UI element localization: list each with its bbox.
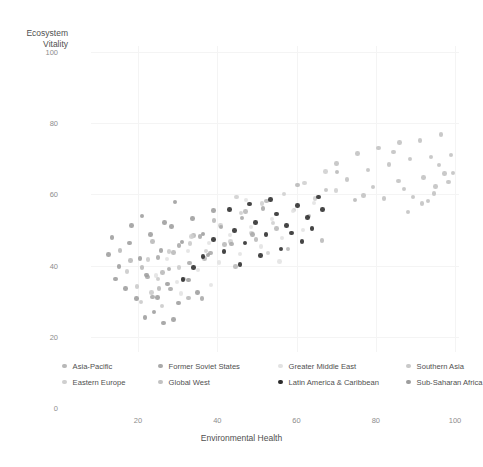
y-tick-label: 20	[28, 333, 58, 342]
legend-item[interactable]: Southern Asia	[406, 362, 483, 371]
scatter-point	[165, 282, 170, 287]
scatter-point	[366, 168, 371, 173]
scatter-point	[177, 243, 182, 248]
y-tick-label: 100	[28, 48, 58, 57]
scatter-point	[211, 237, 216, 242]
scatter-point	[249, 225, 254, 230]
x-tick-label: 40	[202, 416, 232, 425]
scatter-point	[429, 155, 434, 160]
scatter-point	[240, 216, 245, 221]
y-tick-label: 80	[28, 119, 58, 128]
scatter-point	[397, 140, 402, 145]
scatter-point	[243, 209, 248, 214]
scatter-point	[323, 169, 328, 174]
scatter-point	[268, 197, 273, 202]
scatter-point	[157, 286, 162, 291]
scatter-point	[113, 277, 118, 282]
legend-item[interactable]: Global West	[158, 378, 278, 387]
scatter-point	[391, 150, 396, 155]
scatter-point	[244, 198, 249, 203]
gridline-horizontal	[91, 337, 460, 338]
scatter-point	[334, 188, 339, 193]
legend-item[interactable]: Former Soviet States	[158, 362, 278, 371]
legend-item[interactable]: Latin America & Caribbean	[278, 378, 406, 387]
scatter-point	[228, 233, 233, 238]
scatter-point	[421, 175, 426, 180]
scatter-point	[218, 223, 223, 228]
scatter-point	[307, 214, 312, 219]
legend-swatch-icon	[158, 380, 163, 385]
scatter-point	[334, 161, 339, 166]
scatter-point	[243, 241, 248, 246]
scatter-point	[442, 171, 447, 176]
scatter-point	[261, 206, 266, 211]
scatter-point	[125, 269, 130, 274]
scatter-point	[316, 195, 321, 200]
legend-swatch-icon	[62, 364, 67, 369]
scatter-point	[286, 247, 291, 252]
scatter-point	[219, 225, 224, 230]
scatter-point	[408, 157, 413, 162]
scatter-point	[189, 234, 194, 239]
scatter-point	[279, 247, 284, 252]
scatter-point	[264, 199, 269, 204]
scatter-point	[406, 210, 411, 215]
scatter-point	[149, 290, 154, 295]
scatter-point	[247, 202, 252, 207]
scatter-point	[143, 315, 148, 320]
scatter-point	[171, 250, 176, 255]
scatter-point	[355, 151, 360, 156]
scatter-point	[260, 201, 265, 206]
scatter-point	[156, 255, 161, 260]
scatter-point	[274, 226, 279, 231]
legend-swatch-icon	[62, 380, 67, 385]
scatter-point	[270, 217, 275, 222]
scatter-point	[232, 228, 237, 233]
scatter-point	[123, 286, 128, 291]
scatter-point	[266, 251, 271, 256]
scatter-point	[439, 132, 444, 137]
scatter-point	[376, 146, 381, 151]
legend-item[interactable]: Asia-Pacific	[62, 362, 158, 371]
scatter-point	[353, 198, 358, 203]
scatter-point	[201, 232, 206, 237]
gridline-vertical	[376, 46, 377, 352]
plot-area	[0, 0, 483, 467]
gridline-horizontal	[91, 266, 460, 267]
legend-item[interactable]: Greater Middle East	[278, 362, 406, 371]
scatter-point	[207, 241, 212, 246]
scatter-point	[180, 240, 185, 245]
scatter-point	[259, 244, 264, 249]
scatter-point	[238, 252, 243, 257]
scatter-point	[324, 188, 329, 193]
legend-item[interactable]: Sub-Saharan Africa	[406, 378, 483, 387]
scatter-point	[274, 212, 279, 217]
y-axis-title-line1: Ecosystem	[6, 28, 68, 39]
scatter-point	[162, 220, 167, 225]
scatter-point	[345, 177, 350, 182]
scatter-point	[371, 185, 376, 190]
scatter-point	[206, 253, 211, 258]
legend-swatch-icon	[158, 364, 163, 369]
legend-label: Asia-Pacific	[73, 362, 113, 371]
scatter-point	[277, 259, 282, 264]
scatter-point	[165, 257, 170, 262]
x-tick-label: 60	[282, 416, 312, 425]
scatter-point	[312, 201, 317, 206]
scatter-point	[156, 277, 161, 282]
scatter-point	[449, 153, 454, 158]
scatter-point	[254, 237, 259, 242]
scatter-point	[258, 253, 263, 258]
scatter-point	[305, 215, 310, 220]
scatter-point	[118, 248, 123, 253]
scatter-point	[188, 241, 193, 246]
legend-item[interactable]: Eastern Europe	[62, 378, 158, 387]
x-tick-label: 80	[361, 416, 391, 425]
gridline-vertical	[455, 46, 456, 352]
scatter-point	[161, 321, 166, 326]
scatter-point	[160, 270, 165, 275]
scatter-point	[160, 304, 165, 309]
scatter-point	[198, 234, 203, 239]
scatter-point	[320, 207, 325, 212]
scatter-point	[302, 181, 307, 186]
